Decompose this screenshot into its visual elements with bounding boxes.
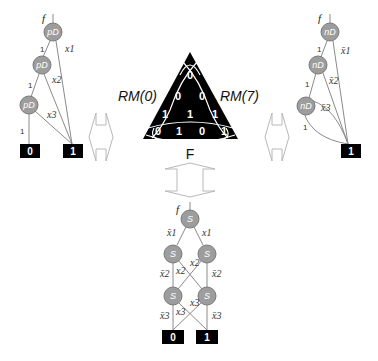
left-edge-label-3: 1 [20, 127, 25, 136]
terminal-label: 0 [27, 146, 33, 157]
node-label: nD [300, 101, 312, 111]
node-label: S [204, 249, 210, 259]
bottom-node-l3-left: S [164, 287, 182, 305]
node-label: S [170, 249, 176, 259]
diagram-canvas: pD pD pD f 1 1 1 x1 x2 x3 0 1 [0, 0, 378, 361]
bottom-function-label: f [176, 203, 181, 215]
terminal-label: 0 [170, 332, 176, 343]
right-double-arrow-icon [265, 113, 289, 161]
bottom-label-x3-b: x3 [189, 297, 199, 308]
right-edge-label-x1: x̄1 [340, 45, 350, 56]
right-edge-1-2 [321, 41, 327, 57]
bottom-label-x3-a: x3 [175, 306, 185, 317]
bottom-label-x3bar-right: x̄3 [211, 310, 221, 321]
triangle-cell: 0 [187, 69, 193, 81]
triangle-cell: 0 [199, 90, 205, 102]
bottom-label-x2-a: x2 [175, 265, 185, 276]
terminal-label: 1 [204, 332, 210, 343]
right-edge-label-x3: x̄3 [320, 102, 330, 113]
node-label: S [187, 214, 193, 224]
right-terminal-1: 1 [341, 144, 361, 158]
node-label: S [170, 291, 176, 301]
terminal-label: 1 [348, 146, 354, 157]
left-terminal-1: 1 [63, 144, 83, 158]
triangle-cell: 1 [212, 108, 218, 120]
triangle-cell: 0 [199, 125, 205, 137]
left-edge-x1 [56, 41, 72, 144]
right-function-label: f [318, 12, 323, 24]
bottom-node-root: S [181, 210, 199, 228]
node-label: nD [324, 27, 336, 37]
triangle-cell: 1 [176, 125, 182, 137]
right-edge-label-3: 1 [303, 123, 308, 132]
left-edge-label-x1: x1 [64, 43, 74, 54]
bottom-label-x2bar-left: x̄2 [159, 268, 169, 279]
right-edge-label-2: 1 [305, 80, 310, 89]
bottom-label-x3bar-left: x̄3 [159, 310, 169, 321]
right-node-2: nD [309, 56, 327, 74]
node-label: nD [312, 60, 324, 70]
left-node-1: pD [44, 23, 62, 41]
node-label: S [204, 291, 210, 301]
left-edge-label-2: 1 [28, 81, 33, 90]
triangle-cell: 1 [187, 108, 193, 120]
triangle-cell: 0 [155, 125, 161, 137]
bottom-label-x2-b: x2 [189, 257, 199, 268]
node-label: pD [35, 60, 48, 70]
left-edge-label-1: 1 [40, 45, 45, 54]
left-terminal-0: 0 [20, 144, 40, 158]
terminal-label: 1 [70, 146, 76, 157]
node-label: pD [46, 27, 59, 37]
left-edge-label-x3: x3 [46, 109, 56, 120]
left-double-arrow-icon [89, 113, 113, 161]
bottom-label-x1bar: x̄1 [166, 227, 176, 238]
bottom-edge-x1bar [177, 227, 186, 245]
vertical-double-arrow-icon [165, 163, 215, 197]
bottom-label-x1: x1 [201, 227, 211, 238]
right-edge-x1 [333, 41, 348, 144]
bottom-node-l2-left: S [164, 245, 182, 263]
right-decision-diagram: nD nD nD f 1 1 1 x̄1 x̄2 x̄3 1 [297, 12, 361, 158]
bottom-label-x2bar-right: x̄2 [211, 268, 221, 279]
left-node-2: pD [33, 56, 51, 74]
bottom-terminal-0: 0 [162, 330, 184, 344]
rm0-label: RM(0) [118, 88, 157, 104]
bottom-decision-diagram: S S S S S f x̄1 x1 x̄2 x2 x2 x̄2 x̄3 x3 … [159, 202, 221, 344]
right-edge-label-1: 1 [317, 45, 322, 54]
right-node-1: nD [321, 23, 339, 41]
node-label: pD [22, 100, 35, 110]
rm7-label: RM(7) [220, 88, 259, 104]
f-transform-label: F [186, 146, 195, 162]
bottom-node-l3-right: S [198, 287, 216, 305]
triangle-cell: 1 [162, 108, 168, 120]
bottom-terminal-1: 1 [196, 330, 218, 344]
left-node-3: pD [20, 96, 38, 114]
bottom-node-l2-right: S [198, 245, 216, 263]
right-node-3: nD [297, 97, 315, 115]
left-edge-label-x2: x2 [51, 74, 61, 85]
triangle-cell: 1 [221, 125, 227, 137]
triangle-cell: 0 [175, 90, 181, 102]
left-function-label: f [42, 12, 47, 24]
left-decision-diagram: pD pD pD f 1 1 1 x1 x2 x3 0 1 [20, 12, 83, 158]
right-edge-label-x2: x̄2 [328, 75, 338, 86]
right-edge-2-3 [309, 73, 316, 98]
